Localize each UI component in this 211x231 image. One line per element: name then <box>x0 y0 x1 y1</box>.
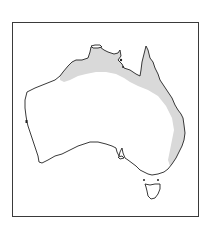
flinders-island <box>157 179 159 181</box>
tasmania <box>145 184 160 199</box>
island-dot <box>122 66 124 68</box>
groote-eylandt <box>120 59 122 61</box>
shark-bay-mark <box>26 120 28 123</box>
kangaroo-island <box>118 156 124 159</box>
melville-island <box>91 45 102 48</box>
king-island <box>143 179 145 181</box>
australia-map <box>0 0 211 231</box>
